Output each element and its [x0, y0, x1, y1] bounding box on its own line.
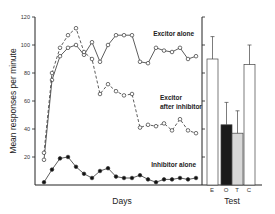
- data-point: [186, 129, 190, 133]
- data-point: [138, 60, 142, 64]
- y-tick-120: 120: [21, 14, 30, 20]
- x-axis-title-test: Test: [224, 196, 240, 206]
- data-point: [114, 175, 118, 179]
- data-point: [162, 122, 166, 126]
- y-tick-20: 20: [24, 154, 30, 160]
- data-point: [50, 78, 54, 82]
- label-excitor-after-2: after inhibitor: [160, 103, 202, 110]
- data-point: [66, 155, 70, 159]
- data-point: [194, 54, 198, 58]
- data-point: [42, 158, 46, 162]
- data-point: [194, 131, 198, 135]
- chart-svg: 120 100 80 60 40 20 Mean responses per m…: [0, 0, 275, 214]
- data-point: [146, 123, 150, 127]
- data-point: [154, 124, 158, 128]
- data-point: [50, 168, 54, 172]
- y-axis-title: Mean responses per minute: [8, 48, 18, 154]
- data-point: [98, 60, 102, 64]
- data-point: [58, 157, 62, 161]
- data-point: [106, 82, 110, 86]
- y-tick-40: 40: [24, 126, 30, 132]
- y-tick-60: 60: [24, 98, 30, 104]
- label-excitor-after-1: Excitor: [160, 94, 183, 101]
- data-point: [66, 33, 70, 37]
- data-point: [154, 46, 158, 50]
- data-point: [138, 126, 142, 130]
- data-point: [58, 54, 62, 58]
- data-point: [42, 180, 46, 184]
- data-point: [178, 46, 182, 50]
- data-point: [98, 169, 102, 173]
- data-point: [122, 176, 126, 180]
- data-point: [82, 50, 86, 54]
- bar-cat-e: E: [210, 187, 214, 193]
- data-point: [50, 71, 54, 75]
- data-point: [178, 176, 182, 180]
- data-point: [114, 89, 118, 93]
- data-point: [170, 178, 174, 182]
- bar-o: [221, 125, 232, 185]
- data-point: [114, 33, 118, 37]
- bar-cat-c: C: [247, 187, 252, 193]
- data-point: [42, 151, 46, 155]
- data-point: [130, 33, 134, 37]
- data-point: [186, 178, 190, 182]
- data-point: [66, 46, 70, 50]
- data-point: [170, 50, 174, 54]
- data-point: [98, 92, 102, 96]
- data-point: [146, 61, 150, 65]
- data-point: [90, 40, 94, 44]
- data-point: [90, 57, 94, 61]
- y-tick-100: 100: [21, 42, 30, 48]
- data-point: [82, 172, 86, 176]
- data-point: [138, 173, 142, 177]
- data-point: [74, 26, 78, 30]
- bar-cat-t: T: [235, 187, 239, 193]
- data-point: [130, 176, 134, 180]
- data-point: [74, 165, 78, 169]
- data-point: [122, 33, 126, 37]
- label-inhibitor-alone: Inhibitor alone: [151, 161, 196, 168]
- data-point: [130, 92, 134, 96]
- data-point: [58, 46, 62, 50]
- data-point: [170, 129, 174, 133]
- bar-t: [232, 133, 243, 185]
- data-point: [162, 178, 166, 182]
- data-point: [154, 180, 158, 184]
- data-point: [106, 43, 110, 47]
- data-point: [146, 178, 150, 182]
- data-point: [106, 166, 110, 170]
- data-point: [162, 49, 166, 53]
- bar-series: [207, 37, 255, 185]
- bar-cat-o: O: [224, 187, 229, 193]
- data-point: [194, 176, 198, 180]
- data-point: [186, 57, 190, 61]
- data-point: [74, 43, 78, 47]
- data-point: [122, 94, 126, 98]
- bar-c: [244, 65, 255, 185]
- label-excitor-alone: Excitor alone: [153, 30, 194, 37]
- x-axis-title-days: Days: [112, 196, 131, 206]
- data-point: [90, 176, 94, 180]
- y-tick-80: 80: [24, 70, 30, 76]
- data-point: [178, 117, 182, 121]
- bar-e: [207, 59, 218, 185]
